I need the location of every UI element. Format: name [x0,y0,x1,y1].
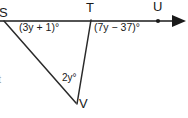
segment-TV [77,20,91,104]
point-marker-U [156,19,160,23]
segment-SV [4,21,76,103]
vertex-label-U: U [153,0,162,13]
geometry-figure: S T U V (3y + 1)° (7y − 37)° 2y° t [0,0,188,118]
vertex-label-S: S [0,6,8,19]
ray-arrowhead-icon [172,15,186,27]
angle-label-at-V: 2y° [62,73,77,83]
vertex-label-T: T [86,1,94,14]
angle-label-at-S: (3y + 1)° [19,22,59,33]
angle-label-at-T: (7y − 37)° [94,22,140,33]
vertex-label-V: V [79,97,88,110]
clipped-left-glyph: t [0,73,2,85]
figure-canvas [0,0,188,118]
